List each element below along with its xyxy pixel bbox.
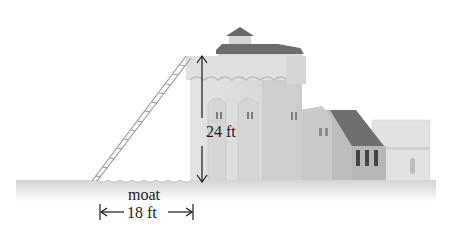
moat-label: moat [128,187,160,203]
height-label: 24 ft [206,124,236,140]
keep-top [216,27,304,60]
ground-and-moat [16,180,436,202]
castle-tower [186,56,306,182]
castle-diagram [0,0,454,232]
ladder [92,56,191,181]
side-annex [300,106,332,182]
distance-label: 18 ft [127,205,157,221]
